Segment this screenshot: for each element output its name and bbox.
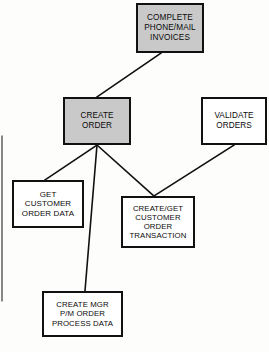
validate-orders-box[interactable]: VALIDATEORDERS: [201, 97, 267, 145]
node-label-line: P/M ORDER: [60, 309, 105, 318]
node-label-line: TRANSACTION: [130, 231, 187, 240]
node-label-line: PROCESS DATA: [52, 319, 113, 328]
node-label-line: CREATE MGR: [56, 300, 108, 309]
node-label-line: ORDER: [82, 121, 112, 131]
node-label-line: VALIDATE: [214, 111, 253, 121]
connector-layer: [0, 0, 269, 352]
create-order-box[interactable]: CREATEORDER: [63, 97, 131, 145]
get-customer-order-data-box[interactable]: GETCUSTOMERORDER DATA: [12, 180, 84, 228]
create-mgr-pm-order-process-data-box[interactable]: CREATE MGRP/M ORDERPROCESS DATA: [42, 291, 123, 337]
create-get-customer-order-transaction-box[interactable]: CREATE/GETCUSTOMERORDERTRANSACTION: [121, 196, 195, 248]
diagram-canvas: COMPLETEPHONE/MAILINVOICESCREATEORDERVAL…: [0, 0, 269, 352]
node-label-line: PHONE/MAIL: [144, 23, 196, 33]
node-label-line: GET: [40, 190, 57, 199]
edge-create-order-to-get-customer: [45, 145, 97, 180]
edge-create-order-to-transaction: [97, 145, 154, 196]
edge-invoices-to-create-order: [97, 53, 161, 97]
node-label-line: CUSTOMER: [25, 199, 71, 208]
complete-phone-mail-invoices-box[interactable]: COMPLETEPHONE/MAILINVOICES: [136, 3, 204, 53]
node-label-line: CREATE/GET: [133, 204, 183, 213]
node-label-line: ORDERS: [216, 121, 252, 131]
node-label-line: CREATE: [80, 111, 113, 121]
edge-validate-orders-to-transaction: [154, 145, 234, 196]
node-label-line: COMPLETE: [147, 13, 193, 23]
node-label-line: ORDER: [144, 222, 173, 231]
edge-create-order-to-create-mgr: [85, 145, 97, 291]
node-label-line: INVOICES: [150, 33, 190, 43]
node-label-line: CUSTOMER: [135, 213, 180, 222]
node-label-line: ORDER DATA: [22, 209, 74, 218]
